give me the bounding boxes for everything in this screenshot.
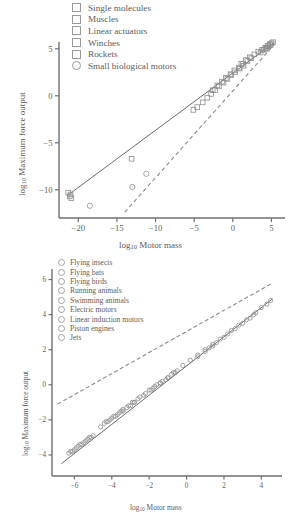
legend-item: Small biological motors	[72, 60, 176, 72]
legend-item-label: Running animals	[70, 286, 122, 295]
data-point-marker	[87, 203, 92, 208]
legend-item-label: Muscles	[88, 14, 119, 24]
chart-panel-bottom: −6−4−20246420−2−4	[0, 264, 299, 528]
legend-item: Linear actuators	[72, 25, 176, 37]
y-axis-tick-label: −2	[38, 416, 46, 424]
square-marker-icon	[72, 50, 81, 59]
legend-item-label: Flying insects	[70, 258, 112, 267]
square-marker-icon	[72, 3, 81, 12]
data-point-marker	[130, 184, 135, 189]
y-axis-title-bottom: log10 Maximum force output	[21, 371, 30, 456]
y-axis-tick-label: 0	[42, 381, 46, 389]
y-axis-title-top-text: log	[17, 184, 27, 196]
x-axis-tick-label: 4	[260, 482, 264, 490]
legend-item: Electric motors	[58, 305, 143, 314]
y-axis-tick-label: 5	[48, 44, 52, 54]
legend-item-label: Rockets	[88, 49, 118, 59]
x-axis-tick-label: −6	[71, 482, 79, 490]
legend-item-label: Flying bats	[70, 268, 104, 277]
data-point-marker	[98, 425, 102, 429]
legend-item: Running animals	[58, 286, 143, 295]
x-axis-tick-label: −2	[145, 482, 153, 490]
y-axis-tick-label: 0	[48, 91, 52, 101]
circle-marker-icon	[58, 269, 65, 276]
y-axis-tick-label: 2	[42, 346, 46, 354]
x-axis-tick-label: −15	[110, 223, 123, 233]
legend-item-label: Jets	[70, 333, 81, 342]
circle-marker-icon	[58, 259, 65, 266]
x-axis-title-top-text: log	[119, 240, 131, 250]
legend-item: Single molecules	[72, 2, 176, 14]
square-marker-icon	[72, 15, 81, 24]
legend-item: Swimming animals	[58, 296, 143, 305]
legend-item-label: Swimming animals	[70, 296, 129, 305]
x-axis-tick-label: −20	[72, 223, 85, 233]
y-axis-tick-label: −4	[38, 451, 46, 459]
x-axis-tick-label: −5	[190, 223, 199, 233]
circle-marker-icon	[58, 316, 65, 323]
circle-marker-icon	[58, 278, 65, 285]
legend-item-label: Winches	[88, 38, 120, 48]
circle-marker-icon	[72, 61, 81, 70]
circle-marker-icon	[58, 334, 65, 341]
y-axis-title-bottom-subscript: 10	[24, 441, 30, 446]
x-axis-tick-label: −10	[149, 223, 162, 233]
data-point-marker	[181, 363, 185, 367]
legend-item: Rockets	[72, 48, 176, 60]
legend-item: Winches	[72, 37, 176, 49]
legend-top: Single moleculesMusclesLinear actuatorsW…	[72, 2, 176, 72]
circle-marker-icon	[58, 297, 65, 304]
x-axis-tick-label: 5	[269, 223, 273, 233]
y-axis-title-top: log10 Maximum force output	[17, 92, 27, 196]
x-axis-title-top: log10 Motor mass	[119, 240, 182, 250]
circle-marker-icon	[58, 287, 65, 294]
chart-panel-top: −20−15−10−50550−5−10 Single moleculesMus…	[0, 0, 299, 264]
legend-item-label: Small biological motors	[88, 61, 176, 71]
y-axis-tick-label: −5	[43, 138, 52, 148]
x-axis-tick-label: 0	[185, 482, 189, 490]
y-axis-title-top-rest: Maximum force output	[17, 92, 27, 178]
x-axis-tick-label: 0	[231, 223, 235, 233]
square-marker-icon	[72, 26, 81, 35]
x-axis-title-bottom-rest: Motor mass	[145, 503, 182, 512]
data-point-marker	[200, 100, 205, 105]
legend-item: Piston engines	[58, 324, 143, 333]
data-point-marker	[144, 171, 149, 176]
legend-item: Flying bats	[58, 267, 143, 276]
legend-item-label: Flying birds	[70, 277, 107, 286]
y-axis-tick-label: −10	[39, 185, 52, 195]
legend-item: Flying birds	[58, 277, 143, 286]
legend-item: Jets	[58, 333, 143, 342]
square-marker-icon	[72, 38, 81, 47]
y-axis-tick-label: 4	[42, 311, 46, 319]
y-axis-tick-label: 6	[42, 276, 46, 284]
legend-item-label: Linear induction motors	[70, 315, 143, 324]
x-axis-tick-label: 2	[222, 482, 226, 490]
x-axis-title-top-rest: Motor mass	[137, 240, 182, 250]
legend-item-label: Linear actuators	[88, 26, 147, 36]
y-axis-title-bottom-text: log	[21, 447, 30, 456]
legend-bottom: Flying insectsFlying batsFlying birdsRun…	[58, 258, 143, 343]
circle-marker-icon	[58, 306, 65, 313]
legend-item: Muscles	[72, 14, 176, 26]
legend-item-label: Electric motors	[70, 305, 117, 314]
x-axis-tick-label: −4	[108, 482, 116, 490]
y-axis-title-top-subscript: 10	[20, 178, 27, 184]
data-point-marker	[188, 358, 192, 362]
bottom-plot-area: −6−4−20246420−2−4	[0, 264, 299, 528]
legend-item-label: Single molecules	[88, 3, 151, 13]
legend-item-label: Piston engines	[70, 324, 114, 333]
y-axis-title-bottom-rest: Maximum force output	[21, 371, 30, 441]
legend-item: Flying insects	[58, 258, 143, 267]
legend-item: Linear induction motors	[58, 314, 143, 323]
circle-marker-icon	[58, 325, 65, 332]
x-axis-title-bottom: log10 Motor mass	[130, 503, 182, 512]
data-point-marker	[129, 156, 134, 161]
